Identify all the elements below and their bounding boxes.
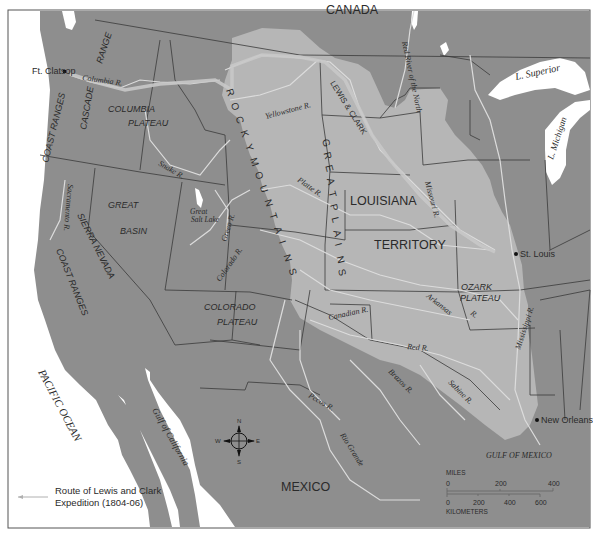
label-gulf-of-mexico: GULF OF MEXICO: [486, 451, 552, 460]
lewis-clark-map: CANADA MEXICO LOUISIANA TERRITORY PACIFI…: [0, 0, 593, 536]
scale-miles-0: 0: [446, 480, 450, 487]
label-great-basin-2: BASIN: [120, 226, 148, 236]
scale-km-600: 600: [535, 499, 547, 506]
compass-w: W: [215, 438, 221, 444]
st-louis-marker: [514, 252, 518, 256]
scale-km-200: 200: [473, 499, 485, 506]
label-ft-clatsop: Ft. Clatsop: [32, 66, 76, 76]
label-columbia-plateau-2: PLATEAU: [128, 118, 169, 128]
label-columbia-plateau-1: COLUMBIA: [108, 104, 155, 114]
label-great-salt-lake-2: Salt Lake: [191, 215, 220, 224]
compass-n: N: [237, 418, 241, 424]
label-st-louis: St. Louis: [520, 249, 556, 259]
label-territory: TERRITORY: [374, 238, 446, 252]
label-colorado-plateau-1: COLORADO: [204, 302, 256, 312]
label-colorado-plateau-2: PLATEAU: [217, 317, 258, 327]
label-canada: CANADA: [326, 3, 379, 17]
scale-miles-label: MILES: [446, 469, 466, 476]
scale-miles-200: 200: [495, 480, 507, 487]
label-great-basin-1: GREAT: [108, 200, 140, 210]
compass-s: S: [237, 459, 241, 465]
scale-km-400: 400: [504, 499, 516, 506]
legend-line-1: Route of Lewis and Clark: [55, 485, 161, 496]
label-louisiana: LOUISIANA: [350, 194, 417, 208]
compass-e: E: [256, 438, 260, 444]
scale-km-0: 0: [446, 499, 450, 506]
legend-line-2: Expedition (1804-06): [55, 497, 143, 508]
label-ozark-plateau-2: PLATEAU: [460, 293, 501, 303]
label-ozark-plateau-1: OZARK: [461, 282, 493, 292]
scale-miles-400: 400: [548, 480, 560, 487]
label-new-orleans: New Orleans: [541, 415, 593, 425]
new-orleans-marker: [535, 418, 539, 422]
label-mexico: MEXICO: [281, 480, 331, 494]
scale-km-label: KILOMETERS: [446, 508, 489, 515]
